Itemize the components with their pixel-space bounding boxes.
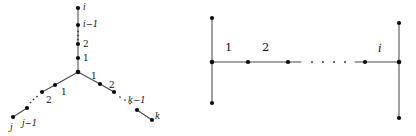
spider-left-ellipsis-dot	[30, 102, 32, 104]
graph-drawing	[0, 0, 416, 136]
spider-left-vertex-j-minus-1	[25, 106, 29, 110]
spider-right-vertex-k	[150, 118, 154, 122]
spider-label-left-1: 1	[61, 88, 67, 97]
spider-left-edge-1	[55, 72, 78, 85]
spider-up-vertex-1	[76, 56, 80, 60]
figure-canvas: i i−1 2 1 1 2 j−1 j 1 2 k−1 k 1 2 i	[0, 0, 416, 136]
spider-up-ellipsis-dot	[77, 31, 79, 33]
spider-label-up-i-minus-1: i−1	[83, 20, 98, 29]
h-right-bottom-leaf-vertex	[397, 116, 401, 120]
spider-up-ellipsis-dot	[77, 39, 79, 41]
spider-center-vertex	[76, 70, 81, 75]
spider-right-vertex-k-minus-1	[135, 108, 139, 112]
spider-label-left-2: 2	[46, 96, 52, 105]
h-left-top-leaf-vertex	[210, 16, 214, 20]
h-left-bottom-leaf-vertex	[210, 101, 214, 105]
spider-right-edge-end	[137, 110, 152, 120]
h-label-edge-i: i	[378, 43, 382, 55]
h-left-spine-vertex	[210, 60, 215, 65]
h-spine-ellipsis-dot	[322, 61, 324, 63]
spider-label-left-j-minus-1: j−1	[22, 119, 37, 128]
spider-left-vertex-2	[40, 90, 44, 94]
spider-left-edge-2	[42, 85, 55, 92]
spider-left-vertex-1	[53, 83, 57, 87]
spider-label-right-k: k	[155, 112, 160, 121]
h-right-top-leaf-vertex	[397, 21, 401, 25]
spider-label-up-2: 2	[83, 40, 89, 49]
spider-label-up-1: 1	[83, 54, 89, 63]
h-spine-ellipsis-dot	[344, 61, 346, 63]
spider-up-vertex-i-minus-1	[76, 23, 80, 27]
h-caterpillar-group	[210, 16, 402, 120]
h-label-edge-1: 1	[225, 42, 232, 54]
h-spine-ellipsis-dot	[333, 61, 335, 63]
spider-left-ellipsis-dot	[33, 99, 35, 101]
h-label-edge-2: 2	[262, 42, 269, 54]
spider-left-edge-end	[13, 108, 27, 117]
h-spine-vertex-i	[363, 60, 367, 64]
spider-label-up-i: i	[83, 3, 86, 12]
spider-up-ellipsis-dot	[77, 35, 79, 37]
spider-up-vertex-i	[76, 6, 80, 10]
h-spine-vertex-1	[246, 60, 250, 64]
spider-label-left-j: j	[10, 123, 13, 132]
spider-label-right-1: 1	[91, 72, 97, 81]
spider-right-vertex-1	[98, 82, 102, 86]
h-right-spine-vertex	[397, 60, 402, 65]
spider-right-vertex-2	[112, 90, 116, 94]
h-spine-ellipsis-dot	[311, 61, 313, 63]
spider-left-ellipsis-dot	[36, 96, 38, 98]
spider-up-vertex-2	[76, 42, 80, 46]
spider-label-right-2: 2	[109, 81, 115, 90]
spider-right-ellipsis-dot	[119, 96, 121, 98]
spider-label-right-k-minus-1: k−1	[128, 96, 146, 105]
spider-right-ellipsis-dot	[124, 99, 126, 101]
h-spine-vertex-2	[286, 60, 290, 64]
spider-left-vertex-j	[11, 115, 15, 119]
